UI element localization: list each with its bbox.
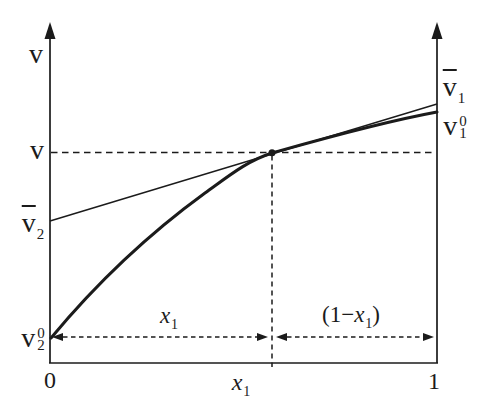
one-minus-x1-span-right-arrowhead bbox=[423, 333, 434, 341]
overbar bbox=[443, 69, 457, 71]
x-tick-zero: 0 bbox=[44, 368, 56, 392]
one-minus-x1-span-label: (1−x1) bbox=[322, 303, 380, 326]
right-axis-arrowhead bbox=[432, 22, 443, 39]
v2-0-base: v bbox=[21, 322, 35, 353]
tangent-line bbox=[50, 104, 437, 221]
x1-span-right-arrowhead bbox=[257, 333, 268, 341]
vbar1-sub: 1 bbox=[458, 90, 466, 106]
y-axis-label: v bbox=[29, 40, 43, 68]
one-minus-x1-span-left-arrowhead bbox=[276, 333, 287, 341]
x1-span-label: x1 bbox=[160, 304, 178, 327]
one-minus-x1-suffix: ) bbox=[372, 302, 380, 327]
x-tick-x1-base: x bbox=[232, 369, 243, 395]
x-tick-one: 1 bbox=[428, 369, 440, 393]
vbar2-base-text: v bbox=[22, 207, 36, 238]
plot-svg bbox=[0, 0, 479, 410]
vbar2-sub: 2 bbox=[37, 226, 45, 242]
v2-0-sub: 2 bbox=[37, 338, 45, 350]
figure: v v v2 v02 v1 v01 0 x1 1 x1 (1−x1) bbox=[0, 0, 479, 410]
v1-0-base: v bbox=[443, 110, 457, 141]
v2-0-label: v02 bbox=[21, 324, 45, 353]
vbar2-base: v bbox=[22, 209, 36, 237]
one-minus-x1-sub: 1 bbox=[365, 316, 372, 331]
x1-span-sub: 1 bbox=[171, 317, 178, 332]
v1-0-scripts: 01 bbox=[459, 114, 467, 138]
v-level-label: v bbox=[30, 136, 44, 164]
x-tick-x1-sub: 1 bbox=[243, 384, 250, 399]
one-minus-x1-prefix: (1− bbox=[322, 302, 354, 327]
vbar1-label: v1 bbox=[443, 73, 466, 101]
v1-0-label: v01 bbox=[443, 112, 467, 141]
y-axis-arrowhead bbox=[45, 22, 56, 39]
v2-0-scripts: 02 bbox=[37, 326, 45, 350]
overbar bbox=[22, 205, 36, 207]
one-minus-x1-base: x bbox=[354, 302, 364, 327]
tangent-point-dot bbox=[269, 149, 276, 156]
vbar1-base-text: v bbox=[443, 71, 457, 102]
x-tick-x1: x1 bbox=[232, 370, 251, 394]
v1-0-sub: 1 bbox=[459, 126, 467, 138]
x1-span-base: x bbox=[160, 303, 170, 328]
vbar1-base: v bbox=[443, 73, 457, 101]
vbar2-label: v2 bbox=[22, 209, 45, 237]
